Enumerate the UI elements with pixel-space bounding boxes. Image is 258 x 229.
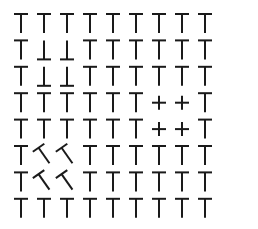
glyph-inverted-t: [60, 67, 74, 86]
glyph-inverted-t: [37, 40, 51, 59]
glyph-plus: [175, 122, 189, 136]
glyph-t: [83, 67, 97, 86]
glyph-t: [83, 40, 97, 59]
glyph-t: [129, 67, 143, 86]
glyph-t: [198, 146, 212, 165]
glyph-t: [106, 40, 120, 59]
glyph-t: [14, 67, 28, 86]
glyph-t: [14, 120, 28, 139]
glyph-t: [129, 93, 143, 112]
glyph-t: [83, 199, 97, 218]
glyph-t: [198, 120, 212, 139]
glyph-t: [129, 40, 143, 59]
glyph-t: [198, 67, 212, 86]
glyph-t: [152, 40, 166, 59]
glyph-t: [106, 67, 120, 86]
glyph-t: [152, 14, 166, 33]
glyph-t: [37, 199, 51, 218]
glyph-rotated-t: [56, 144, 78, 168]
glyph-t: [37, 120, 51, 139]
glyph-t: [60, 199, 74, 218]
glyph-rotated-t: [33, 170, 55, 194]
glyph-t: [198, 14, 212, 33]
glyph-t: [37, 93, 51, 112]
glyph-t: [106, 172, 120, 191]
glyph-t: [60, 120, 74, 139]
glyph-t: [83, 172, 97, 191]
glyph-t: [175, 146, 189, 165]
glyph-t: [14, 93, 28, 112]
glyph-t: [175, 40, 189, 59]
texture-grid: [0, 0, 258, 229]
glyph-t: [83, 146, 97, 165]
glyph-t: [83, 120, 97, 139]
glyph-t: [152, 146, 166, 165]
glyph-t: [83, 93, 97, 112]
glyph-t: [198, 172, 212, 191]
glyph-t: [60, 93, 74, 112]
glyph-plus: [175, 96, 189, 110]
glyph-t: [37, 14, 51, 33]
glyph-t: [14, 146, 28, 165]
glyph-rotated-t: [33, 144, 55, 168]
glyph-t: [175, 199, 189, 218]
glyph-plus: [152, 96, 166, 110]
glyph-inverted-t: [60, 40, 74, 59]
glyph-t: [106, 93, 120, 112]
glyph-t: [152, 199, 166, 218]
glyph-t: [14, 14, 28, 33]
glyph-t: [129, 14, 143, 33]
glyph-t: [83, 14, 97, 33]
glyph-t: [198, 40, 212, 59]
glyph-t: [175, 172, 189, 191]
glyph-t: [106, 120, 120, 139]
glyph-rotated-t: [56, 170, 78, 194]
glyph-plus: [152, 122, 166, 136]
glyph-t: [152, 172, 166, 191]
glyph-t: [129, 199, 143, 218]
glyph-t: [14, 40, 28, 59]
glyph-t: [175, 67, 189, 86]
glyph-t: [198, 93, 212, 112]
glyph-t: [129, 172, 143, 191]
glyph-t: [60, 14, 74, 33]
glyph-t: [106, 199, 120, 218]
glyph-t: [152, 67, 166, 86]
glyph-t: [106, 14, 120, 33]
glyph-t: [106, 146, 120, 165]
glyph-inverted-t: [37, 67, 51, 86]
glyph-t: [198, 199, 212, 218]
glyph-t: [14, 199, 28, 218]
glyph-t: [129, 146, 143, 165]
glyph-t: [129, 120, 143, 139]
glyph-t: [175, 14, 189, 33]
glyph-t: [14, 172, 28, 191]
